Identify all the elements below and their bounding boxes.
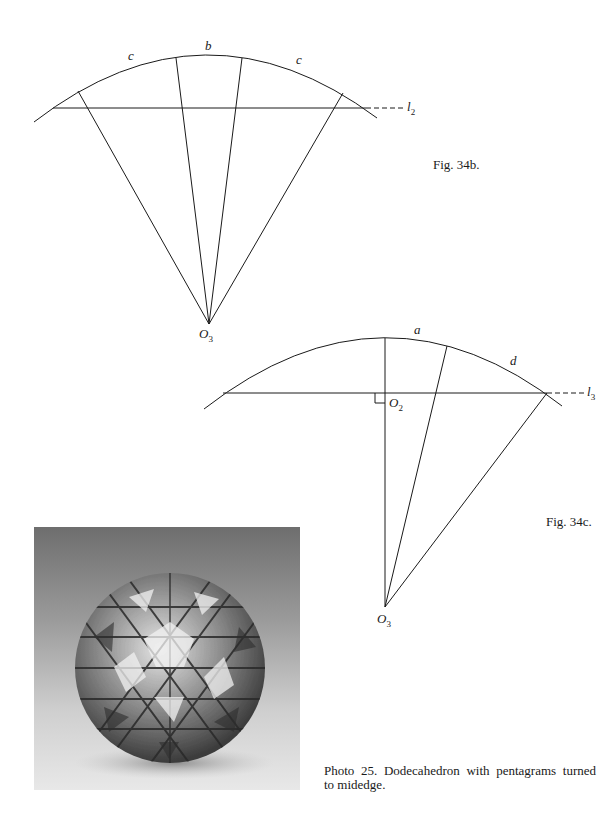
radius-line-3 xyxy=(209,58,242,324)
radius-line-d xyxy=(385,393,547,607)
line-label-l3: l3 xyxy=(587,384,595,402)
foot-label-o2: O2 xyxy=(389,395,403,413)
arc-34b xyxy=(34,55,377,122)
arc-label-a: a xyxy=(414,322,421,338)
figure-caption-34c: Fig. 34c. xyxy=(546,514,592,530)
photo-caption-line-1: Photo 25. Dodecahedron with pentagrams t… xyxy=(324,764,596,778)
center-label-o3-34b: O3 xyxy=(199,326,213,344)
dodecahedron-photo xyxy=(34,527,300,790)
dodecahedron-model-illustration xyxy=(34,527,300,790)
arc-label-c-left: c xyxy=(128,48,134,64)
photo-caption: Photo 25. Dodecahedron with pentagrams t… xyxy=(324,764,596,792)
photo-caption-line-2: to midedge. xyxy=(324,777,385,792)
arc-label-d: d xyxy=(510,353,517,369)
radius-line-2 xyxy=(176,58,209,324)
figure-caption-34b: Fig. 34b. xyxy=(433,157,480,173)
radius-line-1 xyxy=(78,91,209,324)
arc-34c xyxy=(204,338,562,409)
line-label-l2: l2 xyxy=(407,99,415,117)
radius-line-4 xyxy=(209,93,343,324)
arc-label-b: b xyxy=(205,38,212,54)
radius-line-a xyxy=(385,346,447,607)
figure-34b-drawing xyxy=(34,55,405,324)
right-angle-mark xyxy=(375,393,385,403)
arc-label-c-right: c xyxy=(296,52,302,68)
center-label-o3-34c: O3 xyxy=(377,611,391,629)
